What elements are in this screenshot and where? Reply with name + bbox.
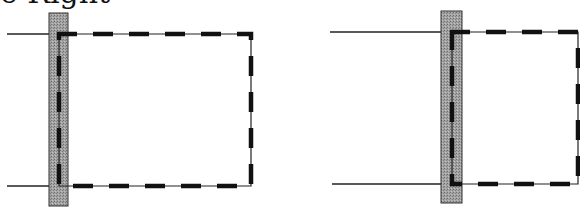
left-figure — [7, 13, 251, 206]
rect-dashed-outline — [59, 34, 251, 186]
rect-dashed-outline — [452, 32, 578, 184]
rect-thin-outline — [452, 32, 578, 184]
diagram-canvas — [0, 0, 580, 208]
right-figure — [330, 11, 578, 203]
rect-thin-outline — [59, 34, 251, 186]
